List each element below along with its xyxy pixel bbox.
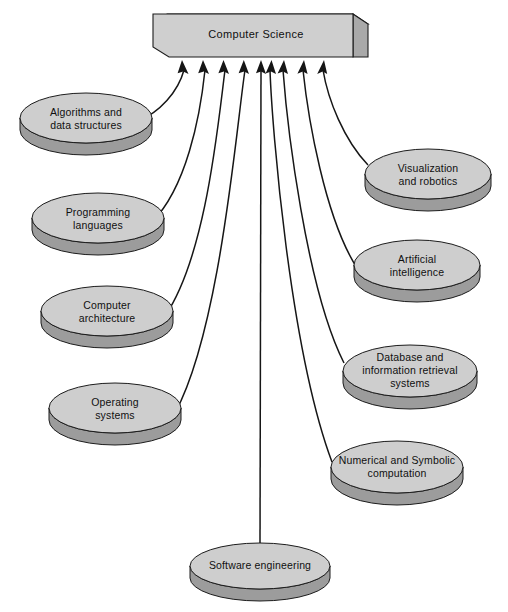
arrowhead-group xyxy=(178,60,328,74)
node-computer-architecture-line-2: architecture xyxy=(79,312,136,324)
diagram-canvas: Computer Science Algorithms and data str… xyxy=(0,0,508,612)
node-numerical-symbolic-line-1: Numerical and Symbolic xyxy=(339,454,456,466)
node-database-information-retrieval-line-1: Database and xyxy=(376,351,443,363)
node-artificial-intelligence-line-2: intelligence xyxy=(390,266,444,278)
node-computer-architecture-line-1: Computer xyxy=(83,299,131,311)
connector-numerical-symbolic xyxy=(270,70,332,462)
connector-programming-languages xyxy=(152,70,205,222)
node-operating-systems[interactable]: Operating systems xyxy=(49,383,181,445)
node-software-engineering[interactable]: Software engineering xyxy=(190,543,330,601)
node-artificial-intelligence-line-1: Artificial xyxy=(398,253,436,265)
node-database-information-retrieval-line-2: information retrieval xyxy=(362,364,457,376)
node-operating-systems-line-1: Operating xyxy=(91,396,138,408)
node-visualization-robotics-line-2: and robotics xyxy=(398,175,457,187)
root-node-box[interactable]: Computer Science xyxy=(153,14,368,57)
node-visualization-robotics[interactable]: Visualization and robotics xyxy=(365,149,491,211)
root-node-label: Computer Science xyxy=(208,28,303,40)
node-computer-architecture[interactable]: Computer architecture xyxy=(41,286,173,348)
arrowhead-3 xyxy=(218,60,229,74)
node-programming-languages-line-1: Programming xyxy=(66,206,131,218)
connector-database-information-retrieval xyxy=(283,70,344,363)
node-operating-systems-line-2: systems xyxy=(95,409,135,421)
diagram-root: Computer Science Algorithms and data str… xyxy=(0,0,508,612)
node-database-information-retrieval-line-3: systems xyxy=(390,377,430,389)
node-programming-languages-line-2: languages xyxy=(73,219,123,231)
node-algorithms-line-1: Algorithms and xyxy=(50,106,122,118)
connector-operating-systems xyxy=(175,70,245,413)
node-algorithms[interactable]: Algorithms and data structures xyxy=(20,93,152,155)
node-numerical-symbolic[interactable]: Numerical and Symbolic computation xyxy=(331,441,463,505)
node-visualization-robotics-line-1: Visualization xyxy=(398,162,459,174)
node-programming-languages[interactable]: Programming languages xyxy=(32,193,164,255)
arrowhead-9 xyxy=(317,60,327,74)
node-artificial-intelligence[interactable]: Artificial intelligence xyxy=(354,240,480,302)
connector-software-engineering xyxy=(260,70,261,548)
box-side-face xyxy=(353,14,368,57)
node-software-engineering-line-1: Software engineering xyxy=(209,559,311,571)
connector-visualization-robotics xyxy=(323,70,368,165)
node-algorithms-line-2: data structures xyxy=(50,119,122,131)
arrowhead-2 xyxy=(198,60,209,74)
arrowhead-4 xyxy=(239,60,249,74)
node-database-information-retrieval[interactable]: Database and information retrieval syste… xyxy=(343,345,477,409)
node-numerical-symbolic-line-2: computation xyxy=(368,467,427,479)
